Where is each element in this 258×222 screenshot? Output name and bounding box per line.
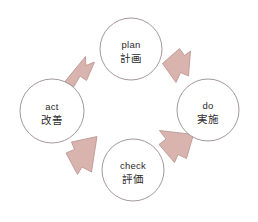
arrow-do-to-check	[159, 131, 194, 163]
node-plan-label-ja: 計画	[120, 52, 141, 64]
arrow-check-to-act	[66, 137, 97, 175]
arrow-act-to-plan-shape	[65, 57, 95, 87]
node-do-label-en: do	[203, 100, 214, 111]
arrow-act-to-plan	[65, 57, 95, 87]
node-do-label-ja: 実施	[197, 113, 219, 125]
arrow-check-to-act-shape	[66, 137, 97, 175]
node-act-label-ja: 改善	[41, 114, 62, 126]
node-check-label-ja: 評価	[122, 173, 143, 185]
node-plan-label-en: plan	[122, 39, 141, 50]
node-check[interactable]: check 評価	[102, 139, 164, 201]
node-do[interactable]: do 実施	[177, 79, 239, 141]
pdca-cycle-diagram: plan 計画 do 実施 check 評価 act 改善	[0, 0, 258, 222]
node-act[interactable]: act 改善	[20, 79, 84, 143]
arrow-plan-to-do	[163, 49, 191, 83]
arrow-do-to-check-shape	[159, 131, 194, 163]
node-check-label-en: check	[120, 160, 146, 171]
pdca-diagram-canvas: plan 計画 do 実施 check 評価 act 改善	[0, 0, 258, 222]
node-act-label-en: act	[45, 101, 58, 112]
arrow-plan-to-do-shape	[163, 49, 191, 83]
node-plan[interactable]: plan 計画	[100, 18, 162, 80]
